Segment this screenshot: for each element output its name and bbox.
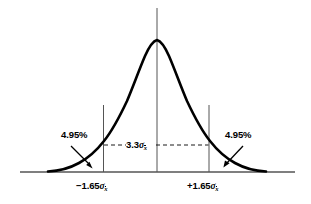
right-tick-subscript: x: [215, 185, 218, 192]
left-tail-percent-label: 4.95%: [61, 130, 87, 140]
interval-width-label: 3.3σx: [126, 140, 147, 152]
distribution-plot-svg: [0, 0, 311, 204]
interval-width-value: 3.3: [126, 139, 139, 150]
interval-width-subscript: x: [144, 144, 147, 151]
left-tick-label: −1.65σx: [76, 181, 108, 193]
left-tick-subscript: x: [104, 185, 107, 192]
right-tick-label: +1.65σx: [187, 181, 219, 193]
right-tick-value: +1.65: [187, 180, 211, 191]
right-tail-percent-label: 4.95%: [225, 130, 251, 140]
left-tick-value: −1.65: [76, 180, 100, 191]
normal-distribution-figure: 4.95% 4.95% 3.3σx −1.65σx +1.65σx: [0, 0, 311, 204]
